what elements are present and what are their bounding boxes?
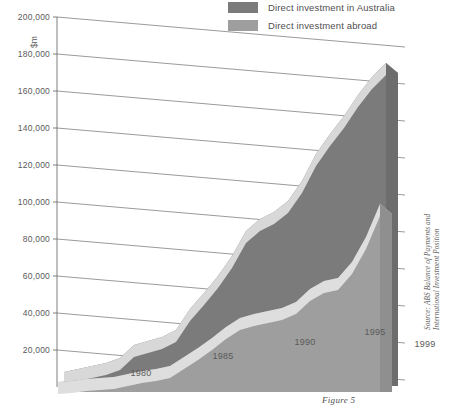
legend-swatch-australia [228,2,258,13]
y-tick-label: 120,000 [18,160,50,170]
source-note: Source: ABS Balance of Payments and Inte… [423,213,441,331]
investment-area-chart: 200,000 180,000 160,000 140,000 120,000 … [0,0,449,408]
y-tick-label: 80,000 [23,234,50,244]
x-tick-label: 1980 [131,368,152,378]
figure-container: 200,000 180,000 160,000 140,000 120,000 … [0,0,449,408]
x-tick-label: 1990 [295,337,316,347]
legend-label-australia: Direct investment in Australia [268,2,396,13]
figure-caption: Figure 5 [321,395,356,405]
y-tick-label: 140,000 [18,123,50,133]
y-tick-label: 160,000 [18,86,50,96]
legend-swatch-abroad [228,20,258,31]
x-tick-label: 1985 [213,351,234,361]
y-tick-label: 60,000 [23,271,50,281]
source-note-line-2: International Investment Position [432,228,441,331]
x-tick-label: 1995 [365,327,386,337]
y-tick-label: 200,000 [18,12,50,22]
chart-legend: Direct investment in Australia Direct in… [228,2,396,31]
y-tick-label: 20,000 [23,345,50,355]
y-tick-label: 100,000 [18,197,50,207]
y-tick-label: 180,000 [18,49,50,59]
y-tick-labels: 200,000 180,000 160,000 140,000 120,000 … [18,12,50,355]
source-note-line-1: Source: ABS Balance of Payments and [423,213,432,330]
y-axis [53,17,57,387]
x-tick-label: 1999 [415,339,436,349]
y-tick-label: 40,000 [23,308,50,318]
y-axis-unit-label: $m [29,36,39,48]
series-abroad-side-face [380,204,392,392]
legend-label-abroad: Direct investment abroad [268,20,377,31]
